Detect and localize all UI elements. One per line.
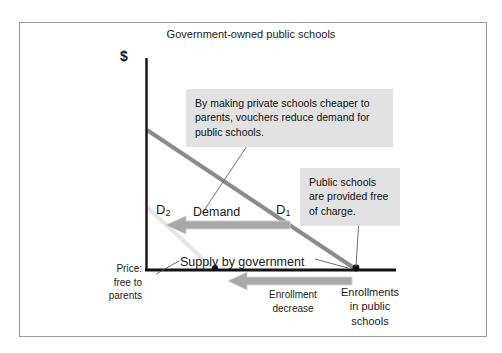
price-line-3: parents (77, 289, 142, 303)
price-free-label: Price: free to parents (77, 262, 142, 303)
enrollment-decrease-label: Enrollment decrease (258, 288, 328, 315)
demand-curve-d2-label: D2 (156, 203, 170, 218)
x-axis-label: Enrollments in public schools (332, 285, 408, 328)
supply-pointer-left (156, 261, 179, 274)
demand-curve-d1-label: D1 (276, 203, 290, 218)
d2-base: D (156, 202, 165, 217)
price-line-2: free to (77, 276, 142, 290)
enrollment-decrease-line-2: decrease (258, 302, 328, 316)
d2-subscript: 2 (165, 208, 170, 218)
figure-canvas: Government-owned public schools $ By mak… (0, 0, 502, 353)
enrollment-decrease-line-1: Enrollment (258, 288, 328, 302)
d1-subscript: 1 (285, 208, 290, 218)
callout-vouchers: By making private schools cheaper to par… (186, 89, 393, 147)
d1-base: D (276, 202, 285, 217)
enrollments-public-line-2: in public (332, 299, 408, 313)
diagram-graphics (0, 0, 502, 353)
enrollments-public-line-1: Enrollments (332, 285, 408, 299)
y-axis-label: $ (120, 48, 128, 64)
supply-line-label: Supply by government (180, 255, 304, 269)
callout-free-of-charge: Public schools are provided free of char… (300, 168, 400, 226)
demand-shift-label: Demand (193, 205, 240, 219)
chart-title: Government-owned public schools (0, 28, 502, 41)
price-line-1: Price: (77, 262, 142, 276)
enrollments-public-line-3: schools (332, 314, 408, 328)
